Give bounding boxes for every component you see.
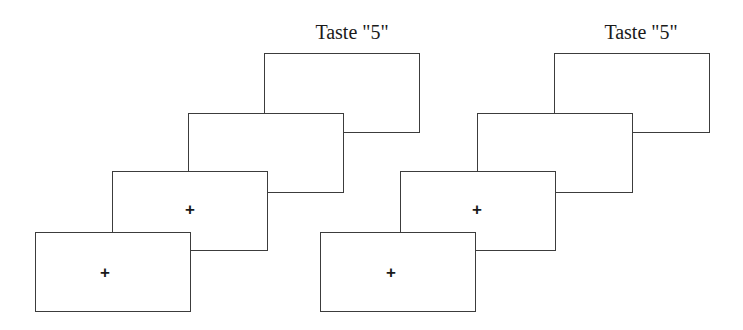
right-trial-sequence-key-label: Taste "5"	[604, 22, 677, 42]
right-screen-1-fixation-fixation-cross: +	[386, 264, 396, 281]
right-screen-1-fixation	[320, 232, 476, 312]
left-screen-1-fixation	[35, 232, 191, 312]
right-screen-2-fixation-fixation-cross: +	[472, 201, 482, 218]
left-screen-2-fixation-fixation-cross: +	[185, 201, 195, 218]
trial-sequence-diagram: ++Taste "5"++Taste "5"	[0, 0, 743, 330]
left-screen-1-fixation-fixation-cross: +	[100, 264, 110, 281]
left-trial-sequence-key-label: Taste "5"	[315, 22, 388, 42]
